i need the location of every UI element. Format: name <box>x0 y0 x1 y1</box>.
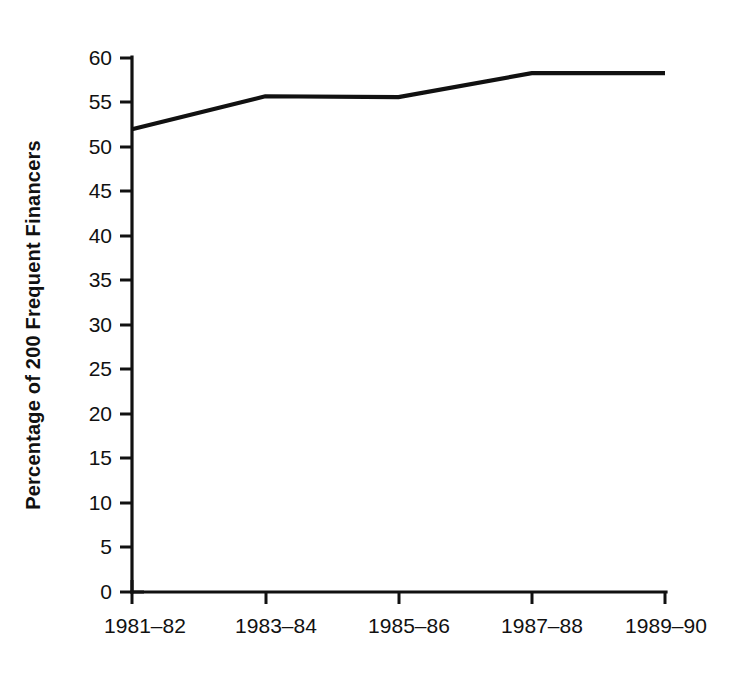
x-tick-label-1985-86: 1985–86 <box>368 614 450 637</box>
y-tick-label-30: 30 <box>89 313 112 336</box>
y-tick-label-10: 10 <box>89 491 112 514</box>
y-tick-label-15: 15 <box>89 446 112 469</box>
y-tick-label-45: 45 <box>89 179 112 202</box>
y-tick-label-25: 25 <box>89 357 112 380</box>
y-tick-label-0: 0 <box>100 580 112 603</box>
x-tick-label-1983-84: 1983–84 <box>235 614 317 637</box>
y-tick-label-20: 20 <box>89 402 112 425</box>
chart-canvas: 60 55 50 45 40 35 30 25 20 15 10 5 0 198… <box>0 0 750 674</box>
chart-background <box>0 0 750 674</box>
y-tick-label-35: 35 <box>89 268 112 291</box>
line-chart-figure: 60 55 50 45 40 35 30 25 20 15 10 5 0 198… <box>0 0 750 674</box>
y-tick-label-55: 55 <box>89 90 112 113</box>
y-tick-label-40: 40 <box>89 224 112 247</box>
y-axis-title: Percentage of 200 Frequent Financers <box>22 140 44 510</box>
y-tick-label-5: 5 <box>100 535 112 558</box>
x-tick-label-1987-88: 1987–88 <box>501 614 583 637</box>
y-tick-label-50: 50 <box>89 135 112 158</box>
x-tick-label-1981-82: 1981–82 <box>104 614 186 637</box>
x-tick-label-1989-90: 1989–90 <box>625 614 707 637</box>
y-tick-label-60: 60 <box>89 46 112 69</box>
